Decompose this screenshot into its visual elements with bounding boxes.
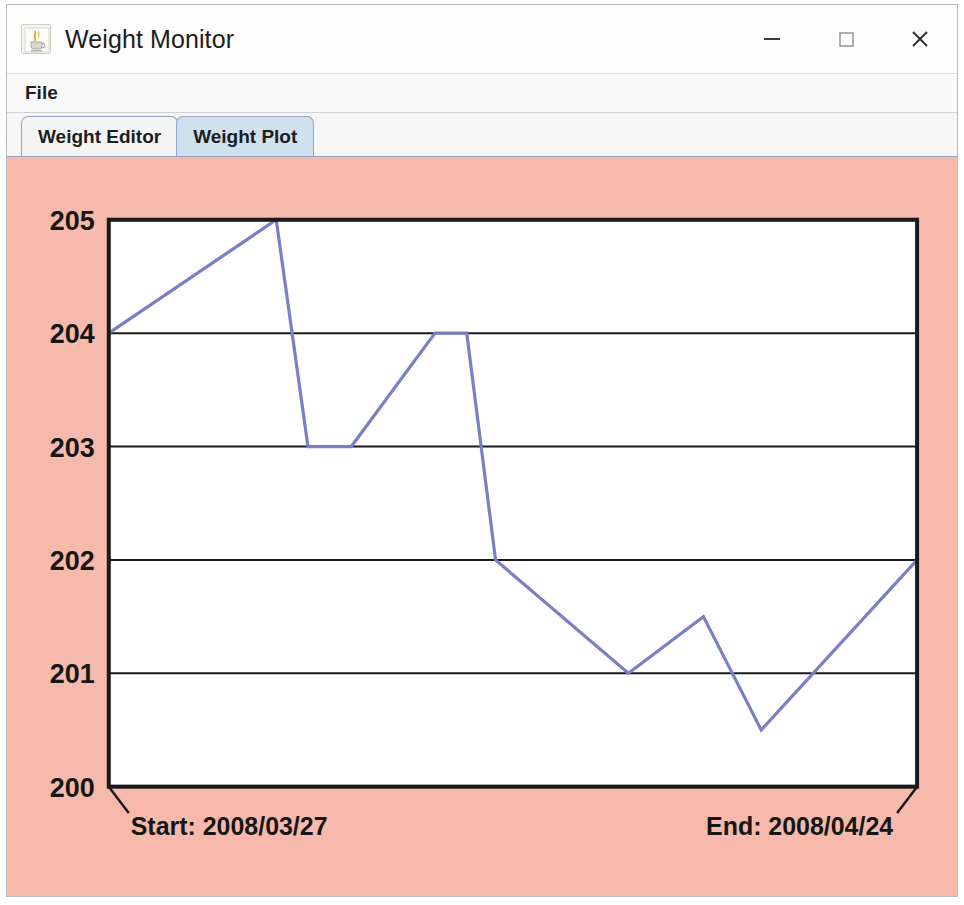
- title-bar: Weight Monitor: [7, 5, 957, 74]
- window-controls: [735, 5, 957, 73]
- menu-item-file[interactable]: File: [17, 82, 66, 104]
- tab-weight-plot[interactable]: Weight Plot: [176, 116, 314, 156]
- plot-area-background: [109, 220, 917, 787]
- plot-end-label: End: 2008/04/24: [706, 812, 893, 840]
- y-axis-tick-label: 201: [50, 658, 95, 689]
- weight-plot-panel: 205204203202201200 Start: 2008/03/27 End…: [7, 157, 957, 896]
- tab-strip: Weight Editor Weight Plot: [7, 113, 957, 157]
- java-coffee-cup-icon: [21, 24, 51, 54]
- application-window: Weight Monitor File: [6, 4, 958, 897]
- plot-start-label: Start: 2008/03/27: [131, 812, 328, 840]
- end-leader-line: [897, 787, 917, 813]
- y-axis-tick-labels: 205204203202201200: [50, 205, 95, 803]
- y-axis-tick-label: 204: [50, 318, 95, 349]
- tab-weight-plot-label: Weight Plot: [193, 126, 297, 148]
- minimize-button[interactable]: [735, 5, 809, 73]
- y-axis-tick-label: 205: [50, 205, 95, 236]
- tab-weight-editor-label: Weight Editor: [38, 126, 161, 148]
- start-leader-line: [109, 787, 129, 813]
- y-axis-tick-label: 200: [50, 772, 95, 803]
- y-axis-tick-label: 202: [50, 545, 95, 576]
- tab-weight-editor[interactable]: Weight Editor: [21, 116, 178, 156]
- y-axis-tick-label: 203: [50, 431, 95, 462]
- close-button[interactable]: [883, 5, 957, 73]
- weight-plot-chart: 205204203202201200 Start: 2008/03/27 End…: [7, 157, 957, 896]
- window-title: Weight Monitor: [65, 25, 234, 54]
- maximize-button[interactable]: [809, 5, 883, 73]
- menu-bar: File: [7, 74, 957, 113]
